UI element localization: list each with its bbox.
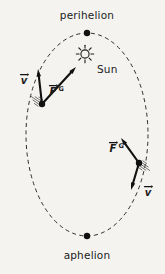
planet-left-dot: [39, 101, 45, 107]
planet-left-velocity-vector-arrow-head: [37, 69, 41, 77]
planet-right-gravity-label-subscript: G: [118, 142, 123, 150]
planet-left-gravity-label: FG: [49, 84, 63, 97]
orbit-diagram-canvas: perihelion aphelion Sun vFGvFG: [0, 0, 165, 274]
planet-right-velocity-vector-arrow-head: [131, 182, 135, 190]
planet-left: vFG: [20, 67, 76, 107]
sun-icon: [76, 45, 93, 62]
planet-right: vFG: [109, 138, 153, 198]
planet-right-velocity-vector-arrow-shaft: [133, 163, 139, 185]
aphelion-label: aphelion: [64, 249, 111, 261]
planet-left-gravity-vector-arrow-shaft: [42, 71, 72, 104]
aphelion-marker-dot: [84, 233, 90, 239]
planet-left-velocity-label: v: [20, 73, 29, 86]
planet-right-gravity-label-text: F: [110, 143, 117, 154]
planet-vector-layer: vFGvFG: [20, 67, 153, 198]
planet-left-velocity-label-vector-bar-head: [27, 73, 29, 76]
planet-left-gravity-label-subscript: G: [58, 85, 63, 93]
sun-ray: [89, 48, 91, 50]
sun-ray: [79, 48, 81, 50]
trail-stroke: [33, 100, 39, 104]
planet-right-dot: [136, 160, 142, 166]
planet-right-velocity-vector-arrow: [131, 163, 139, 190]
planet-right-gravity-vector-arrow-shaft: [124, 142, 139, 163]
trail-stroke: [138, 167, 142, 170]
sun-label: Sun: [97, 63, 118, 75]
planet-right-gravity-label: FG: [109, 141, 123, 154]
planet-left-velocity-label-text: v: [21, 75, 28, 86]
sun-ray: [89, 58, 91, 60]
trail-stroke: [143, 161, 147, 164]
orbit-diagram: perihelion aphelion Sun vFGvFG: [0, 0, 165, 274]
sun-rays: [76, 45, 93, 62]
perihelion-label: perihelion: [60, 9, 114, 21]
perihelion-marker-dot: [84, 30, 90, 36]
orbit-ellipse-path: [26, 33, 148, 236]
planet-right-velocity-label: v: [144, 185, 153, 198]
trail-stroke: [34, 104, 38, 107]
planet-left-gravity-label-text: F: [50, 86, 57, 97]
sun-ray: [79, 58, 81, 60]
planet-right-velocity-label-text: v: [145, 187, 152, 198]
planet-right-velocity-label-vector-bar-head: [151, 185, 153, 188]
